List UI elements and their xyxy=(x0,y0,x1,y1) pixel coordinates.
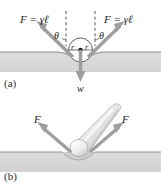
panel-a: F = γℓ F = γℓ θ θ r r w (a) xyxy=(0,0,161,95)
radius-right-label-a: r xyxy=(85,44,88,52)
weight-label-a: w xyxy=(77,84,84,94)
panel-a-caption: (a) xyxy=(4,78,16,89)
force-left-label-b: F xyxy=(34,114,41,125)
force-right-label-a: F = γℓ xyxy=(104,14,133,25)
angle-right-label-a: θ xyxy=(99,31,104,41)
radius-left-label-a: r xyxy=(71,44,74,52)
surface-tension-figure: F = γℓ F = γℓ θ θ r r w (a) F F (b) xyxy=(0,0,161,189)
force-right-label-b: F xyxy=(122,114,129,125)
panel-b-caption: (b) xyxy=(4,171,17,182)
panel-b: F F (b) xyxy=(0,95,161,189)
angle-left-label-a: θ xyxy=(54,31,59,41)
force-left-label-a: F = γℓ xyxy=(20,14,49,25)
